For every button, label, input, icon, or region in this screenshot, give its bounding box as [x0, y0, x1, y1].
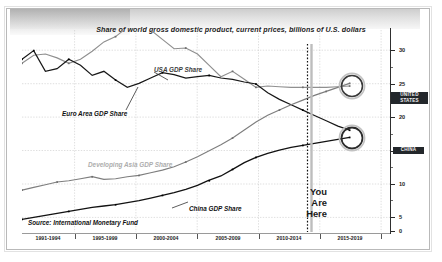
series-markers-asia [22, 83, 350, 192]
you-are-here-line-3: Here [297, 208, 327, 219]
you-are-here-annotation: You Are Here [297, 186, 327, 219]
y-tick-mark [391, 217, 395, 218]
series-label-asia: Developing Asia GDP Share [88, 161, 172, 168]
label-leader-lines [126, 72, 188, 208]
series-label-china: China GDP Share [189, 205, 242, 212]
series-line-usa [22, 30, 350, 87]
y-tick-mark-minor [391, 200, 393, 201]
x-tick-mark [75, 234, 76, 239]
you-are-here-line-1: You [297, 186, 327, 197]
y-tick-mark [391, 184, 395, 185]
x-tick-label-1995-1999: 1995-1999 [93, 235, 118, 241]
series-markers-usa [22, 30, 350, 88]
y-tick-mark-minor [391, 67, 393, 68]
x-tick-mark [197, 234, 198, 239]
y-tick-mark-minor [391, 167, 393, 168]
y-tick-label-20: 20 [399, 114, 405, 120]
y-tick-label-5: 5 [399, 214, 402, 220]
y-tick-mark [391, 231, 395, 232]
series-label-usa: USA GDP Share [154, 66, 202, 73]
y-tick-mark-minor [391, 134, 393, 135]
y-tick-mark [391, 117, 395, 118]
callout-chip-line-2: STATES [393, 99, 426, 104]
series-line-asia [22, 83, 350, 190]
plot-area [22, 30, 390, 232]
chart-screenshot: Share of world gross domestic product, c… [0, 0, 442, 262]
y-axis: 30 25 20 15 10 5 0 [391, 30, 401, 232]
x-tick-mark [320, 234, 321, 239]
x-tick-label-2005-2009: 2005-2009 [216, 235, 241, 241]
x-tick-label-2000-2004: 2000-2004 [154, 235, 179, 241]
x-tick-mark [136, 234, 137, 239]
y-tick-label-30: 30 [399, 47, 405, 53]
callout-chip-line-1: UNITED [400, 92, 418, 97]
x-tick-mark [259, 234, 260, 239]
chart-canvas [22, 30, 390, 232]
x-tick-label-1991-1994: 1991-1994 [36, 235, 61, 241]
callout-chip-united-states: UNITED STATES [391, 92, 428, 104]
x-tick-label-2015-2019: 2015-2019 [338, 235, 363, 241]
x-tick-label-2010-2014: 2010-2014 [277, 235, 302, 241]
y-tick-mark [391, 50, 395, 51]
x-tick-mark [381, 234, 382, 239]
x-axis: 1991-1994 1995-1999 2000-2004 2005-2009 … [22, 234, 390, 248]
y-tick-label-25: 25 [399, 81, 405, 87]
y-tick-label-0: 0 [399, 228, 402, 234]
series-label-euro: Euro Area GDP Share [62, 110, 127, 117]
you-are-here-line-2: Are [297, 197, 327, 208]
y-axis-spine [390, 28, 391, 234]
y-tick-label-10: 10 [399, 181, 405, 187]
source-note: Source: International Monetary Fund [28, 219, 138, 226]
callout-chip-china: CHINA [393, 147, 424, 154]
y-tick-mark [391, 84, 395, 85]
